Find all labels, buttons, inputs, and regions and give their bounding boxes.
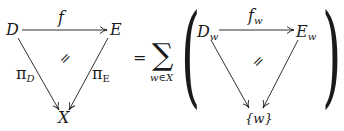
- sum-index: w∈X: [150, 73, 173, 83]
- period: .: [333, 56, 338, 72]
- sum-symbol: ∑: [152, 40, 173, 70]
- subscript-e: E: [103, 73, 110, 84]
- d-main: D: [197, 22, 210, 41]
- subscript-d: D: [27, 73, 35, 84]
- label-f-w: fw: [248, 8, 262, 26]
- right-paren: ): [322, 0, 341, 110]
- arrow-right-w: [263, 40, 298, 108]
- pi-symbol: π: [16, 64, 27, 83]
- node-d: D: [6, 22, 19, 38]
- label-f: f: [58, 10, 64, 26]
- node-e: E: [110, 22, 122, 38]
- e-subscript: w: [308, 31, 317, 42]
- label-pi-e: πE: [92, 66, 110, 84]
- left-paren: (: [181, 0, 200, 110]
- pi-symbol: π: [92, 64, 103, 83]
- equals-sign: =: [133, 50, 146, 66]
- d-subscript: w: [210, 31, 219, 42]
- label-pi-d: πD: [16, 66, 35, 84]
- node-x: X: [58, 110, 69, 126]
- e-main: E: [296, 22, 308, 41]
- node-d-w: Dw: [197, 24, 218, 42]
- node-e-w: Ew: [296, 24, 316, 42]
- arrow-left-w: [211, 40, 249, 108]
- f-subscript: w: [254, 15, 263, 26]
- node-singleton-w: {w}: [245, 112, 273, 125]
